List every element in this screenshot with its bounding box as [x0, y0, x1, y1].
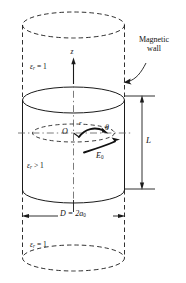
e-field-subscript: 0	[101, 154, 104, 160]
eps-mid-relation: > 1	[32, 161, 44, 170]
radius-label: r	[79, 120, 82, 127]
diameter-expression: D = 2a	[60, 209, 83, 218]
eps-bot-relation: = 1	[35, 240, 47, 249]
figure-canvas: Magnetic wall εr = 1 εr > 1 εr = 1 z O r…	[0, 0, 186, 283]
radius-segment	[74, 133, 80, 137]
height-label: L	[146, 136, 151, 145]
z-axis-arrow	[71, 58, 75, 85]
axis-group	[18, 62, 132, 200]
magnetic-wall-label-line2: wall	[147, 44, 161, 53]
permittivity-top-label: εr = 1	[30, 63, 47, 71]
theta-label: θ	[105, 124, 109, 132]
z-axis-label: z	[71, 48, 74, 56]
magnetic-wall-top-ellipse	[23, 12, 125, 38]
permittivity-mid-label: εr > 1	[27, 162, 44, 170]
magnetic-wall-cylinder	[23, 12, 125, 271]
magnetic-wall-label: Magnetic wall	[126, 36, 182, 54]
diameter-subscript: 0	[83, 212, 86, 218]
magnetic-wall-leader-line	[129, 63, 147, 82]
diameter-label: D = 2a0	[60, 210, 86, 218]
eps-top-relation: = 1	[35, 62, 47, 71]
e-field-arrows	[79, 129, 115, 153]
origin-label: O	[62, 128, 68, 136]
permittivity-bottom-label: εr = 1	[30, 241, 47, 249]
e-field-label: E0	[96, 152, 103, 160]
z-axis-arrowhead	[71, 58, 75, 65]
magnetic-wall-label-line1: Magnetic	[139, 35, 169, 44]
